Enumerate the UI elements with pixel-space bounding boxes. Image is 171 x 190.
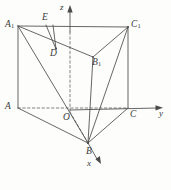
- geometry-figure: A1 C1 B1 A C B O D E z y x: [0, 0, 171, 190]
- vertex-label-E: E: [42, 13, 48, 23]
- y-axis-line: [70, 108, 157, 110]
- vertex-label-B: B: [86, 147, 92, 157]
- vertex-label-C1: C1: [131, 20, 141, 30]
- vertex-label-C: C: [130, 110, 137, 120]
- vertex-label-A: A: [5, 102, 11, 112]
- vertex-label-D: D: [50, 49, 57, 59]
- point-C1-dot: [127, 26, 129, 28]
- axis-label-y: y: [159, 109, 163, 118]
- geometry-canvas: [0, 0, 171, 190]
- axis-label-x: x: [87, 159, 91, 168]
- edge-A1-C1: [18, 26, 128, 27]
- z-axis-arrow: [67, 5, 72, 13]
- vertex-label-A1: A1: [5, 20, 14, 30]
- axis-label-z: z: [60, 3, 64, 12]
- vertex-label-O: O: [63, 113, 70, 123]
- point-B-dot: [87, 142, 89, 144]
- vertex-label-B1: B1: [92, 58, 101, 68]
